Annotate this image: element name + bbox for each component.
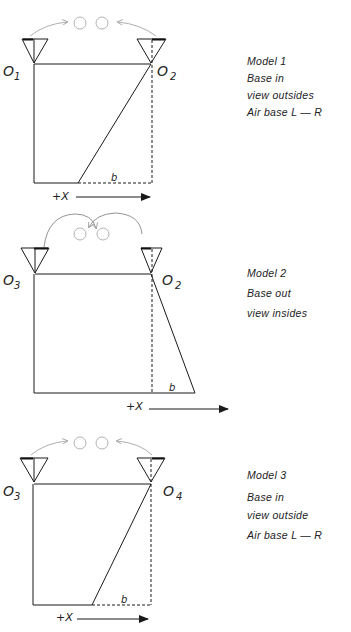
model-1-caption: Model 1 Base in view outsides Air base L… (247, 53, 322, 121)
station-label-left: O3 (3, 272, 20, 291)
camera-left-icon (21, 248, 49, 273)
view-arrow-right (117, 441, 152, 455)
view-arrow-left (30, 22, 67, 36)
base-label: b (169, 382, 175, 393)
caption-line: Base in (247, 70, 322, 87)
view-arrow-right (118, 22, 156, 36)
camera-left-icon (22, 39, 48, 63)
station-label-right: O4 (163, 483, 182, 502)
caption-line: Base in (247, 488, 322, 506)
caption-title: Model 2 (247, 263, 307, 283)
station-label-left: O3 (3, 483, 20, 502)
station-label-right: O2 (162, 272, 181, 291)
eye-right-icon (96, 437, 108, 449)
camera-left-icon (20, 458, 48, 482)
caption-line: Base out (247, 283, 307, 303)
caption-line: view outsides (247, 87, 322, 104)
station-label-right: O2 (157, 63, 176, 82)
eye-left-icon (74, 17, 86, 29)
caption-line: view insides (247, 303, 307, 323)
caption-line: view outside (247, 506, 322, 524)
caption-title: Model 3 (247, 466, 322, 484)
view-arrow-left (31, 441, 67, 455)
model-3-caption: Model 3 Base in view outside Air base L … (247, 466, 322, 544)
eye-left-icon (74, 228, 86, 240)
eye-left-icon (74, 437, 86, 449)
model-2-diagram: O3 O2 b +X (3, 213, 228, 413)
caption-line: Air base L — R (247, 526, 322, 544)
view-arrow-left (44, 214, 96, 247)
model-3-diagram: O3 O4 b +X (3, 437, 182, 624)
axis-label: +X (56, 611, 73, 624)
model-2-caption: Model 2 Base out view insides (247, 263, 307, 323)
model-1-diagram: O1 O2 b +X (3, 17, 176, 203)
base-label: b (121, 594, 127, 605)
caption-line: Air base L — R (247, 104, 322, 121)
view-arrow-right (89, 213, 142, 234)
eye-right-icon (97, 228, 109, 240)
station-label-left: O1 (3, 63, 20, 82)
base-label: b (111, 172, 117, 183)
axis-label: +X (126, 400, 143, 413)
axis-label: +X (52, 190, 69, 203)
caption-title: Model 1 (247, 53, 322, 70)
eye-right-icon (96, 17, 108, 29)
